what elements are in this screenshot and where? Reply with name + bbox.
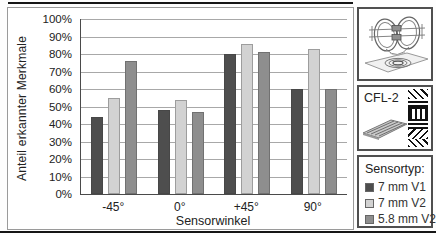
layup-ply-diagonal [408,129,428,139]
y-tick-label: 0% [30,188,72,200]
x-tick-label: 90° [280,200,347,214]
bar-group-2 [148,19,215,194]
bar [291,89,303,194]
legend-item: 5.8 mm V2 [365,211,427,227]
y-tick-label: 70% [30,66,72,78]
layup-ply-diagonal [408,139,428,147]
y-tick-label: 10% [30,171,72,183]
legend-item: 7 mm V1 [365,179,427,195]
y-axis-ticks: 100%90%80%70%60%50%40%30%20%10%0% [34,19,76,194]
figure-sensor-angle-chart: Anteil erkannter Merkmale 100%90%80%70%6… [0,0,436,235]
legend-swatch [365,183,374,192]
bar [258,52,270,194]
bar [224,54,236,194]
legend-box: Sensortyp: 7 mm V17 mm V25.8 mm V2 [357,155,433,228]
y-tick-label: 80% [30,48,72,60]
bar-group-3 [214,19,281,194]
scan-border-top [8,2,353,4]
legend-label: 5.8 mm V2 [378,212,436,226]
legend-swatch [365,215,374,224]
bar [192,112,204,194]
plot-area [80,19,347,195]
bar [175,100,187,195]
y-tick-label: 30% [30,136,72,148]
y-axis-title: Anteil erkannter Merkmale [14,16,30,200]
bar-group-1 [81,19,148,194]
legend-label: 7 mm V2 [378,196,426,210]
bar [325,89,337,194]
chart-panel: Anteil erkannter Merkmale 100%90%80%70%6… [7,7,354,230]
specimen-box: CFL-2 [357,85,433,151]
bar [158,110,170,194]
legend-item: 7 mm V2 [365,195,427,211]
y-tick-label: 50% [30,101,72,113]
layup-ply-horizontal [408,99,428,107]
layup-ply-horizontal [408,121,428,129]
bar [108,98,120,194]
x-axis-ticks: -45°0°+45°90° [80,200,346,214]
layup-ply-diagonal [408,89,428,99]
bar [241,44,253,195]
legend-swatch [365,199,374,208]
bar [91,117,103,194]
scan-border-bottom [0,231,436,233]
bar-group-4 [281,19,348,194]
layup-ply-vertical [408,107,428,121]
y-tick-label: 20% [30,153,72,165]
specimen-label: CFL-2 [364,91,399,105]
legend-label: 7 mm V1 [378,180,426,194]
x-tick-label: 0° [147,200,214,214]
x-axis-title: Sensorwinkel [80,214,346,228]
x-tick-label: -45° [80,200,147,214]
y-tick-label: 100% [30,13,72,25]
meander-sensor-plate-icon [361,113,409,141]
bar [308,49,320,194]
y-tick-label: 40% [30,118,72,130]
bar [125,61,137,194]
cfrp-layup-pattern-icon [408,89,428,147]
x-tick-label: +45° [213,200,280,214]
y-tick-label: 90% [30,31,72,43]
y-tick-label: 60% [30,83,72,95]
legend-items: 7 mm V17 mm V25.8 mm V2 [365,179,427,227]
coil-sensor-icon [360,11,430,77]
sensor-image-box [357,7,433,81]
legend-title: Sensortyp: [365,162,427,176]
